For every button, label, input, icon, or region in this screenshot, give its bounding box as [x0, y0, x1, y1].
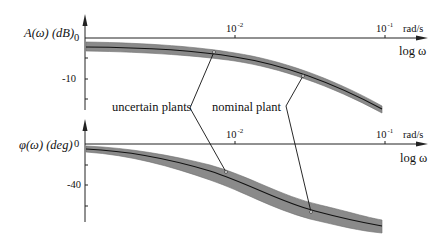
phase-x-tick-1e-2: 10-2	[226, 128, 243, 141]
x-tick-exp: -1	[388, 21, 394, 29]
magnitude-y-axis-arrow-icon	[83, 14, 88, 26]
phase-y-label-text: φ(ω) (deg)	[19, 138, 73, 152]
magnitude-x-tick-1e-1: 10-1	[376, 22, 393, 35]
x-tick-base: 10	[226, 129, 237, 140]
magnitude-y-label: A(ω) (dB)	[24, 27, 74, 40]
phase-x-axis-arrow-icon	[416, 142, 428, 147]
annotation-nominal-plant: nominal plant	[212, 101, 281, 114]
x-tick-base: 10	[376, 23, 387, 34]
magnitude-tick-0: 0	[74, 33, 79, 44]
magnitude-x-axis-arrow-icon	[416, 36, 428, 41]
x-tick-exp: -2	[238, 127, 244, 135]
x-tick-exp: -2	[238, 21, 244, 29]
x-tick-exp: -1	[388, 127, 394, 135]
x-label-text: log ω	[399, 44, 426, 58]
magnitude-tick-minus10: -10	[62, 74, 76, 85]
magnitude-x-tick-1e-2: 10-2	[226, 22, 243, 35]
phase-tick-0: 0	[74, 139, 79, 150]
phase-x-tick-1e-1: 10-1	[376, 128, 393, 141]
phase-uncertainty-band	[86, 146, 382, 233]
x-label-text: log ω	[400, 151, 427, 165]
magnitude-y-label-text: A(ω) (dB)	[24, 26, 74, 40]
phase-x-label: log ω	[400, 152, 427, 165]
annotation-uncertain-plants: uncertain plants	[112, 101, 192, 114]
phase-y-axis-arrow-icon	[83, 119, 88, 131]
phase-x-unit: rad/s	[403, 130, 423, 141]
x-tick-base: 10	[226, 23, 237, 34]
x-tick-base: 10	[376, 129, 387, 140]
magnitude-x-label: log ω	[399, 45, 426, 58]
phase-y-label: φ(ω) (deg)	[19, 139, 73, 152]
phase-tick-minus40: -40	[67, 180, 81, 191]
magnitude-x-unit: rad/s	[403, 24, 423, 35]
